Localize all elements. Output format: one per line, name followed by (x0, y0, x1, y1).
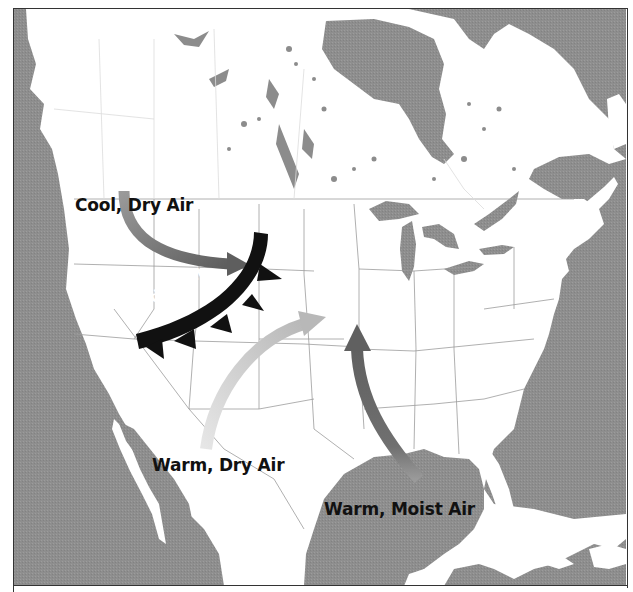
caption-area (13, 585, 628, 592)
map-frame: Cool, Dry Air Cold Front Warm, Dry Air W… (13, 8, 628, 588)
cool-dry-air-label: Cool, Dry Air (75, 195, 193, 215)
hispaniola (589, 544, 626, 569)
north-america-map (14, 9, 626, 586)
warm-dry-air-label: Warm, Dry Air (152, 455, 284, 475)
warm-moist-air-label: Warm, Moist Air (324, 499, 475, 519)
